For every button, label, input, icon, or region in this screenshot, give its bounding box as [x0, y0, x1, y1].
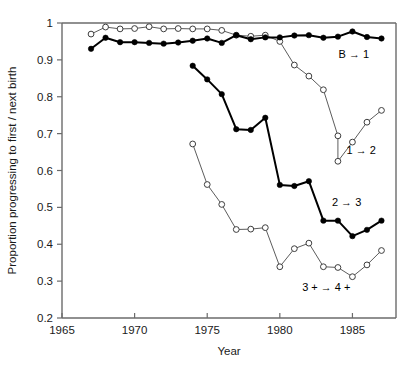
series-point	[335, 158, 341, 164]
y-axis-title: Proportion progressing to first / next b…	[6, 67, 18, 275]
label-1-to-2: 1 → 2	[346, 144, 375, 156]
series-point	[306, 73, 312, 79]
y-tick-label: 0.6	[37, 165, 53, 177]
series-point	[262, 225, 268, 231]
y-tick-label: 0.3	[37, 275, 53, 287]
series-point	[190, 26, 196, 32]
series-point	[103, 35, 108, 40]
series-point	[364, 34, 369, 39]
series-point	[379, 248, 385, 254]
y-tick-label: 0.5	[37, 201, 53, 213]
series-point	[234, 127, 239, 132]
series-point	[277, 35, 282, 40]
series-point	[291, 246, 297, 252]
series-point	[190, 38, 195, 43]
series-point	[88, 31, 94, 37]
series-point	[117, 26, 123, 32]
x-tick-label: 1985	[340, 324, 366, 336]
x-axis-title: Year	[217, 345, 240, 357]
series-point	[364, 119, 370, 125]
series-point	[277, 264, 283, 270]
x-tick-label: 1965	[49, 324, 75, 336]
series-point	[234, 32, 239, 37]
x-tick-label: 1975	[194, 324, 220, 336]
series-point	[103, 24, 109, 30]
label-2-to-3: 2 → 3	[332, 196, 361, 208]
series-point	[146, 40, 151, 45]
series-point	[175, 26, 181, 32]
series-point	[161, 41, 166, 46]
label-3plus-to-4plus: 3 + → 4 +	[302, 281, 350, 293]
series-point	[364, 262, 370, 268]
series-point	[335, 34, 340, 39]
series-point	[204, 182, 210, 188]
series-point	[277, 182, 282, 187]
y-tick-label: 0.4	[37, 238, 54, 250]
series-point	[219, 91, 224, 96]
series-point	[146, 24, 152, 30]
series-point	[190, 141, 196, 147]
series-point	[248, 226, 254, 232]
series-point	[291, 62, 297, 68]
series-point	[161, 26, 167, 32]
series-point	[350, 233, 355, 238]
series-point	[248, 37, 253, 42]
y-axis-tick-labels: 0.20.30.40.50.60.70.80.91	[37, 17, 54, 324]
series-point	[364, 227, 369, 232]
series-point	[306, 240, 312, 246]
series-point	[219, 202, 225, 208]
chart-figure: 0.20.30.40.50.60.70.80.91 19651970197519…	[0, 0, 417, 375]
series-point	[379, 36, 384, 41]
series-point	[350, 29, 355, 34]
series-point	[88, 46, 93, 51]
series-point	[306, 32, 311, 37]
series-point	[190, 63, 195, 68]
series-point	[233, 227, 239, 233]
series-point	[292, 183, 297, 188]
series-point	[263, 115, 268, 120]
series-point	[292, 33, 297, 38]
series-point	[219, 27, 225, 33]
series-point	[306, 178, 311, 183]
x-tick-label: 1970	[122, 324, 148, 336]
series-point	[320, 264, 326, 270]
series-point	[204, 26, 210, 32]
label-b-to-1: B → 1	[339, 48, 370, 60]
chart-canvas: 0.20.30.40.50.60.70.80.91 19651970197519…	[0, 0, 417, 375]
series-point	[205, 77, 210, 82]
series-point	[335, 265, 341, 271]
series-point	[117, 39, 122, 44]
series-point	[219, 40, 224, 45]
x-tick-label: 1980	[267, 324, 293, 336]
series-point	[321, 218, 326, 223]
series-point	[263, 35, 268, 40]
y-tick-label: 0.9	[37, 54, 53, 66]
series-point	[132, 39, 137, 44]
series-point	[350, 274, 356, 280]
y-tick-label: 1	[47, 17, 53, 29]
series-point	[379, 218, 384, 223]
series-point	[379, 107, 385, 113]
y-tick-label: 0.7	[37, 128, 53, 140]
series-point	[205, 36, 210, 41]
series-point	[248, 127, 253, 132]
series-point	[175, 40, 180, 45]
series-point	[335, 218, 340, 223]
series-point	[335, 133, 341, 139]
y-tick-label: 0.2	[37, 312, 53, 324]
series-point	[320, 87, 326, 93]
series-point	[321, 35, 326, 40]
y-tick-label: 0.8	[37, 91, 53, 103]
series-point	[132, 26, 138, 32]
